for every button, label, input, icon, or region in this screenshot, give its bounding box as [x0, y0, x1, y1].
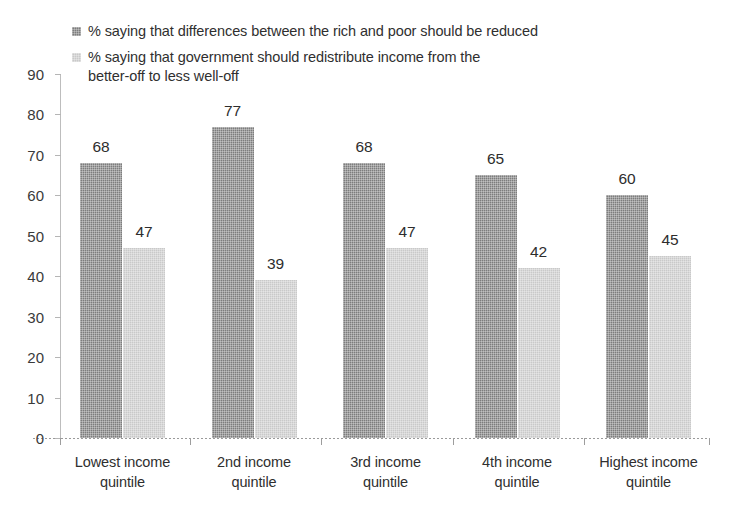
- bar-series0-group2[interactable]: [343, 163, 385, 438]
- bar-series1-group3[interactable]: [518, 268, 560, 438]
- category-label-1: 2nd income quintile: [190, 452, 319, 492]
- bar-series1-group4[interactable]: [649, 256, 691, 438]
- bar-value-series0-group1: 77: [202, 103, 264, 119]
- bar-series0-group0[interactable]: [80, 163, 122, 438]
- plot-area: 0102030405060708090 68477739684765426045…: [0, 0, 729, 508]
- x-tick-2: [321, 438, 322, 445]
- bar-series1-group0[interactable]: [123, 248, 165, 438]
- category-label-3: 4th income quintile: [453, 452, 582, 492]
- x-tick-end: [709, 438, 710, 445]
- x-tick-1: [190, 438, 191, 445]
- bar-series1-group1[interactable]: [255, 280, 297, 438]
- bar-value-series0-group4: 60: [596, 171, 658, 187]
- bar-value-series0-group2: 68: [333, 139, 395, 155]
- bar-series0-group3[interactable]: [475, 175, 517, 438]
- bar-value-series0-group0: 68: [70, 139, 132, 155]
- category-label-0: Lowest income quintile: [58, 452, 187, 492]
- bars-layer: [0, 0, 729, 438]
- bar-chart: % saying that differences between the ri…: [0, 0, 729, 508]
- bar-value-series1-group4: 45: [639, 232, 701, 248]
- category-label-2: 3rd income quintile: [321, 452, 450, 492]
- bar-value-series0-group3: 65: [465, 151, 527, 167]
- bar-series1-group2[interactable]: [386, 248, 428, 438]
- x-tick-3: [453, 438, 454, 445]
- category-label-4: Highest income quintile: [584, 452, 713, 492]
- bar-value-series1-group1: 39: [245, 256, 307, 272]
- bar-value-series1-group0: 47: [113, 224, 175, 240]
- x-tick-4: [584, 438, 585, 445]
- x-axis-line: [33, 438, 710, 439]
- bar-value-series1-group2: 47: [376, 224, 438, 240]
- bar-series0-group1[interactable]: [212, 127, 254, 438]
- x-tick-start: [60, 438, 61, 445]
- bar-value-series1-group3: 42: [508, 244, 570, 260]
